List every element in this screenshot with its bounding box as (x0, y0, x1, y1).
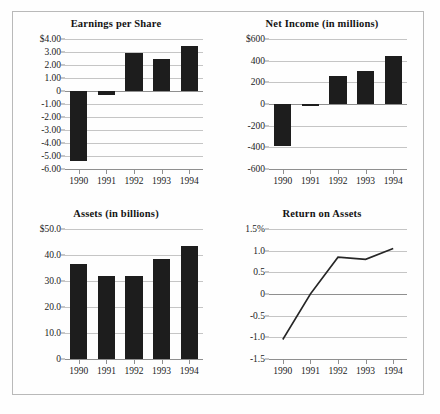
y-axis-tick-label: -1.00 (41, 99, 61, 109)
x-axis-tick-mark (106, 170, 107, 174)
chart-title-assets: Assets (in billions) (13, 208, 219, 219)
x-axis-tick-mark (338, 360, 339, 364)
bar (98, 276, 115, 359)
x-axis-tick-mark (79, 360, 80, 364)
chart-panel-assets: Assets (in billions) $50.040.030.020.010… (13, 204, 219, 396)
y-axis-tick-label: 1.0 (253, 246, 265, 256)
x-axis-tick-label: 1991 (97, 366, 116, 376)
gridline (65, 229, 203, 230)
bar (98, 91, 115, 95)
figure-page: Earnings per Share $4.003.002.001.000-1.… (0, 0, 440, 414)
y-axis-tick-label: $50.0 (40, 224, 61, 234)
y-axis-tick-mark (61, 255, 65, 256)
x-axis-tick-mark (366, 360, 367, 364)
y-axis-tick-mark (61, 117, 65, 118)
bar (153, 59, 170, 92)
x-axis-tick-mark (79, 170, 80, 174)
y-axis-tick-mark (61, 333, 65, 334)
y-axis-tick-label: -600 (248, 164, 265, 174)
x-axis-tick-mark (189, 170, 190, 174)
x-axis-tick-mark (134, 170, 135, 174)
bar (329, 76, 346, 104)
chart-panel-return-on-assets: Return on Assets 1.5%1.00.50-0.5-1.0-1.5… (219, 204, 425, 396)
y-axis-tick-mark (61, 307, 65, 308)
y-axis-tick-label: 0 (56, 354, 61, 364)
bar (181, 246, 198, 359)
bar (125, 53, 142, 91)
y-axis-tick-label: -400 (248, 142, 265, 152)
y-axis-tick-label: -4.00 (41, 138, 61, 148)
y-axis-tick-mark (61, 78, 65, 79)
y-axis-tick-mark (61, 91, 65, 92)
y-axis-tick-mark (265, 39, 269, 40)
x-axis-tick-label: 1994 (180, 366, 199, 376)
x-axis-tick-mark (189, 360, 190, 364)
y-axis-tick-mark (265, 60, 269, 61)
y-axis-tick-label: $600 (246, 34, 265, 44)
y-axis-tick-mark (61, 52, 65, 53)
y-axis-tick-label: 0.5 (253, 267, 265, 277)
chart-title-earnings-per-share: Earnings per Share (13, 18, 219, 29)
bar (302, 104, 319, 106)
x-axis-tick-label: 1990 (69, 366, 88, 376)
plot-area-assets: $50.040.030.020.010.00199019911992199319… (65, 229, 203, 359)
x-axis-tick-label: 1994 (180, 176, 199, 186)
y-axis-tick-label: 0 (260, 99, 265, 109)
x-axis-tick-label: 1990 (273, 176, 292, 186)
bar (70, 264, 87, 359)
y-axis-tick-mark (265, 82, 269, 83)
x-axis-tick-label: 1993 (152, 176, 171, 186)
x-axis-tick-label: 1990 (273, 366, 292, 376)
x-axis-tick-mark (283, 360, 284, 364)
y-axis-tick-label: 2.00 (44, 60, 61, 70)
y-axis-tick-mark (61, 130, 65, 131)
x-axis-tick-label: 1994 (384, 176, 403, 186)
bar (385, 56, 402, 104)
x-axis-tick-label: 1992 (329, 366, 348, 376)
x-axis-tick-mark (310, 170, 311, 174)
y-axis-tick-label: -6.00 (41, 164, 61, 174)
y-axis-tick-label: -3.00 (41, 125, 61, 135)
y-axis-tick-label: -2.00 (41, 112, 61, 122)
gridline (269, 147, 407, 148)
bar (274, 104, 291, 146)
y-axis-tick-mark (265, 147, 269, 148)
y-axis-tick-mark (61, 104, 65, 105)
y-axis-tick-label: 30.0 (44, 276, 61, 286)
gridline (65, 39, 203, 40)
y-axis-tick-label: 0 (260, 289, 265, 299)
chart-panel-earnings-per-share: Earnings per Share $4.003.002.001.000-1.… (13, 12, 219, 204)
bar (181, 46, 198, 92)
x-axis-tick-label: 1991 (301, 366, 320, 376)
y-axis-tick-mark (61, 65, 65, 66)
x-axis-tick-mark (393, 170, 394, 174)
y-axis-tick-label: 1.5% (245, 224, 265, 234)
y-axis-tick-label: 400 (251, 56, 265, 66)
y-axis-tick-label: 200 (251, 77, 265, 87)
y-axis-tick-mark (61, 281, 65, 282)
y-axis-tick-label: 1.00 (44, 73, 61, 83)
y-axis-tick-label: 3.00 (44, 47, 61, 57)
x-axis-tick-label: 1992 (329, 176, 348, 186)
x-axis-tick-label: 1993 (356, 366, 375, 376)
y-axis-tick-label: -5.00 (41, 151, 61, 161)
x-axis-tick-label: 1990 (69, 176, 88, 186)
x-axis-tick-mark (162, 170, 163, 174)
plot-area-earnings-per-share: $4.003.002.001.000-1.00-2.00-3.00-4.00-5… (65, 39, 203, 169)
x-axis-tick-mark (106, 360, 107, 364)
figure-frame: Earnings per Share $4.003.002.001.000-1.… (12, 11, 424, 395)
y-axis-tick-label: 0 (56, 86, 61, 96)
bar (125, 276, 142, 359)
bar (70, 91, 87, 161)
y-axis-tick-label: 40.0 (44, 250, 61, 260)
y-axis-tick-label: -200 (248, 121, 265, 131)
y-axis-tick-label: -1.5 (250, 354, 265, 364)
x-axis-tick-mark (283, 170, 284, 174)
y-axis-tick-mark (265, 104, 269, 105)
x-axis-tick-label: 1993 (152, 366, 171, 376)
x-axis-tick-label: 1991 (97, 176, 116, 186)
y-axis-tick-label: -1.0 (250, 332, 265, 342)
line-series (269, 229, 407, 359)
chart-panel-net-income: Net Income (in millions) $6004002000-200… (219, 12, 425, 204)
x-axis-tick-label: 1993 (356, 176, 375, 186)
